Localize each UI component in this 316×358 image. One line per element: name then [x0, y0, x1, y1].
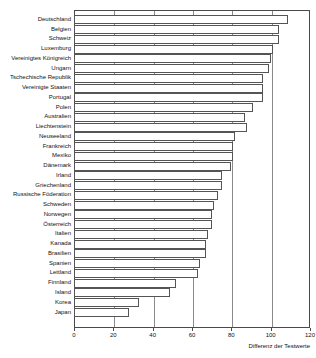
bar	[74, 288, 170, 297]
bar	[74, 171, 222, 180]
category-label: Polen	[0, 104, 71, 111]
x-tick-mark	[74, 328, 75, 331]
category-label: Lettland	[0, 269, 71, 276]
category-label: Frankreich	[0, 143, 71, 150]
x-tick-mark	[231, 328, 232, 331]
bar	[74, 25, 279, 34]
bar	[74, 259, 200, 268]
x-tick-label: 40	[142, 332, 164, 339]
category-label: Ungarn	[0, 65, 71, 72]
x-tick-label: 80	[220, 332, 242, 339]
category-label: Mexiko	[0, 152, 71, 159]
category-label: Finnland	[0, 279, 71, 286]
bar	[74, 35, 279, 44]
bar	[74, 298, 139, 307]
bar	[74, 74, 263, 83]
category-label: Brasilien	[0, 250, 71, 257]
category-label: Island	[0, 289, 71, 296]
x-tick-label: 0	[63, 332, 85, 339]
category-label: Russische Föderation	[0, 191, 71, 198]
category-label: Liechtenstein	[0, 123, 71, 130]
category-label: Tschechische Republik	[0, 74, 71, 81]
bar	[74, 269, 198, 278]
category-label: Portugal	[0, 94, 71, 101]
bar	[74, 152, 233, 161]
bar	[74, 54, 271, 63]
bar	[74, 230, 208, 239]
category-label: Schweiz	[0, 35, 71, 42]
bar	[74, 64, 269, 73]
bar	[74, 103, 253, 112]
bar	[74, 93, 263, 102]
x-axis: Differenz der Testwerte 020406080100120	[74, 328, 310, 358]
category-label: Australien	[0, 113, 71, 120]
bar	[74, 162, 231, 171]
category-label: Luxemburg	[0, 45, 71, 52]
bar	[74, 279, 176, 288]
category-label: Irland	[0, 172, 71, 179]
category-label: Italien	[0, 230, 71, 237]
bar	[74, 210, 212, 219]
x-tick-mark	[153, 328, 154, 331]
bar	[74, 45, 273, 54]
x-tick-label: 100	[260, 332, 282, 339]
bar	[74, 123, 247, 132]
category-label: Österreich	[0, 221, 71, 228]
bar	[74, 240, 206, 249]
bar	[74, 84, 263, 93]
bar	[74, 113, 245, 122]
bar	[74, 249, 206, 258]
category-label: Vereinigtes Königreich	[0, 55, 71, 62]
bar	[74, 181, 222, 190]
category-label: Vereinigte Staaten	[0, 84, 71, 91]
x-axis-title: Differenz der Testwerte	[249, 342, 310, 350]
x-tick-label: 20	[102, 332, 124, 339]
bar	[74, 142, 233, 151]
category-label: Kanada	[0, 240, 71, 247]
bar	[74, 220, 212, 229]
x-tick-label: 60	[181, 332, 203, 339]
category-label: Korea	[0, 299, 71, 306]
category-label: Belgien	[0, 26, 71, 33]
category-label: Japan	[0, 309, 71, 316]
category-label: Spanien	[0, 260, 71, 267]
x-tick-mark	[192, 328, 193, 331]
bar	[74, 191, 218, 200]
category-label: Norwegen	[0, 211, 71, 218]
category-label: Neuseeland	[0, 133, 71, 140]
x-tick-mark	[113, 328, 114, 331]
x-tick-mark	[310, 328, 311, 331]
bars-layer	[74, 10, 310, 328]
category-label: Griechenland	[0, 182, 71, 189]
category-label: Deutschland	[0, 16, 71, 23]
chart-container: DeutschlandBelgienSchweizLuxemburgVerein…	[0, 0, 316, 358]
category-label: Dänemark	[0, 162, 71, 169]
bar	[74, 132, 235, 141]
category-labels: DeutschlandBelgienSchweizLuxemburgVerein…	[0, 10, 71, 328]
category-label: Schweden	[0, 201, 71, 208]
x-tick-mark	[271, 328, 272, 331]
bar	[74, 308, 129, 317]
bar	[74, 15, 288, 24]
bar	[74, 201, 214, 210]
x-tick-label: 120	[299, 332, 316, 339]
